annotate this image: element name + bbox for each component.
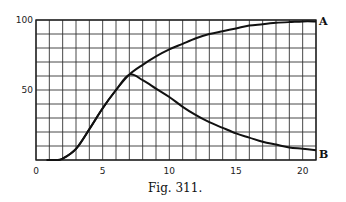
y-axis-ticks: 50100: [16, 15, 33, 95]
x-tick-label: 5: [100, 166, 106, 176]
x-tick-label: 15: [230, 166, 241, 176]
grid: [36, 20, 316, 160]
y-tick-label: 100: [16, 15, 33, 25]
curve-a-label: A: [318, 15, 328, 28]
figure-chart: 50100 05101520 A B Fig. 311.: [0, 0, 346, 202]
x-tick-label: 20: [297, 166, 309, 176]
y-tick-label: 50: [22, 85, 34, 95]
curve-b-label: B: [319, 148, 328, 161]
x-tick-label: 10: [164, 166, 176, 176]
x-tick-label: 0: [33, 166, 39, 176]
figure-caption: Fig. 311.: [148, 181, 202, 195]
x-axis-ticks: 05101520: [33, 166, 309, 176]
